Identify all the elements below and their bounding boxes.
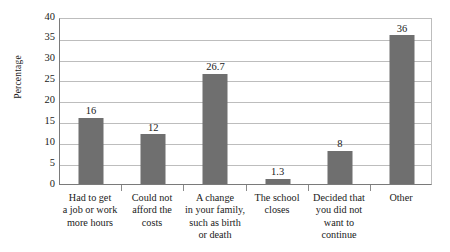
category-label-3: A changein your family,such as birthor d… bbox=[177, 192, 253, 242]
y-tick-25: 25 bbox=[33, 74, 55, 84]
y-axis-title: Percentage bbox=[13, 32, 23, 122]
bar-other[interactable] bbox=[389, 35, 414, 184]
category-label-line: Other bbox=[367, 192, 435, 204]
bar-decided-not-continue[interactable] bbox=[327, 151, 352, 184]
bar-had-to-get-a-job[interactable] bbox=[79, 118, 104, 184]
plot-area: 16 12 26.7 1.3 8 36 bbox=[59, 18, 432, 185]
bar-chart-figure: Percentage 40 35 30 25 20 15 10 5 0 16 1… bbox=[0, 0, 450, 252]
y-tick-40: 40 bbox=[33, 12, 55, 22]
y-tick-15: 15 bbox=[33, 116, 55, 126]
bar-slot-2: 12 bbox=[122, 19, 184, 184]
bar-school-closes[interactable] bbox=[265, 179, 290, 184]
bar-value-2: 12 bbox=[148, 122, 159, 133]
category-label-1: Had to geta job or workmore hours bbox=[53, 192, 127, 229]
category-label-line: or death bbox=[177, 229, 253, 241]
category-label-line: Had to get bbox=[53, 192, 127, 204]
bar-value-6: 36 bbox=[397, 23, 408, 34]
category-tick-5 bbox=[370, 185, 371, 191]
category-label-line: a job or work bbox=[53, 204, 127, 216]
bar-could-not-afford[interactable] bbox=[141, 134, 166, 184]
category-label-line: you did not bbox=[303, 204, 375, 216]
y-tick-20: 20 bbox=[33, 95, 55, 105]
bar-value-3: 26.7 bbox=[206, 61, 224, 72]
category-tick-2 bbox=[183, 185, 184, 191]
y-tick-0: 0 bbox=[33, 179, 55, 189]
category-label-line: want to bbox=[303, 217, 375, 229]
bar-change-in-family[interactable] bbox=[203, 74, 228, 184]
bar-value-5: 8 bbox=[337, 138, 342, 149]
bar-slot-5: 8 bbox=[309, 19, 371, 184]
category-label-6: Other bbox=[367, 192, 435, 204]
bar-value-1: 16 bbox=[86, 105, 97, 116]
category-label-5: Decided thatyou did notwant tocontinue bbox=[303, 192, 375, 242]
category-tick-4 bbox=[308, 185, 309, 191]
x-axis-category-labels: Had to geta job or workmore hours Could … bbox=[59, 192, 432, 252]
bar-slot-4: 1.3 bbox=[247, 19, 309, 184]
category-label-line: The school bbox=[243, 192, 311, 204]
y-tick-35: 35 bbox=[33, 32, 55, 42]
category-label-line: closes bbox=[243, 204, 311, 216]
bar-slot-3: 26.7 bbox=[184, 19, 246, 184]
bar-slot-1: 16 bbox=[60, 19, 122, 184]
bar-series: 16 12 26.7 1.3 8 36 bbox=[60, 19, 431, 184]
category-tick-1 bbox=[121, 185, 122, 191]
category-label-line: in your family, bbox=[177, 204, 253, 216]
y-axis-tick-labels: 40 35 30 25 20 15 10 5 0 bbox=[26, 0, 55, 252]
category-label-line: A change bbox=[177, 192, 253, 204]
category-label-line: Decided that bbox=[303, 192, 375, 204]
category-label-line: more hours bbox=[53, 217, 127, 229]
y-tick-10: 10 bbox=[33, 137, 55, 147]
bar-value-4: 1.3 bbox=[271, 166, 284, 177]
category-label-line: continue bbox=[303, 229, 375, 241]
category-tick-3 bbox=[246, 185, 247, 191]
y-tick-30: 30 bbox=[33, 53, 55, 63]
y-tick-5: 5 bbox=[33, 158, 55, 168]
bar-slot-6: 36 bbox=[371, 19, 433, 184]
category-label-line: such as birth bbox=[177, 217, 253, 229]
category-label-4: The schoolcloses bbox=[243, 192, 311, 217]
